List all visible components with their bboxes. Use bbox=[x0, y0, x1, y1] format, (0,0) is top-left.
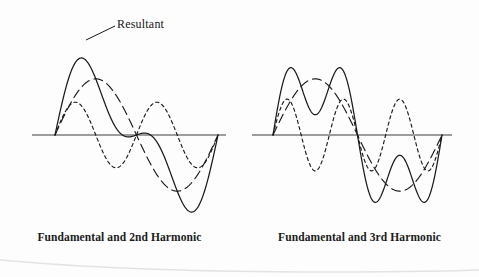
panel-fundamental-3rd-harmonic: Fundamental and 3rd Harmonic bbox=[240, 0, 479, 230]
harmonic-synthesis-figure: Fundamental and 2nd Harmonic Fundamental… bbox=[0, 0, 479, 277]
caption-right: Fundamental and 3rd Harmonic bbox=[240, 231, 479, 243]
scan-artifact bbox=[0, 258, 479, 277]
caption-left: Fundamental and 2nd Harmonic bbox=[0, 231, 239, 243]
annotation-leader-left bbox=[86, 26, 115, 40]
panel-fundamental-2nd-harmonic: Fundamental and 2nd Harmonic bbox=[0, 0, 239, 230]
resultant-annotation-label: Resultant bbox=[117, 17, 164, 32]
resultant-leader-line bbox=[86, 26, 115, 40]
plot-right bbox=[240, 0, 479, 230]
plot-left bbox=[0, 0, 239, 230]
